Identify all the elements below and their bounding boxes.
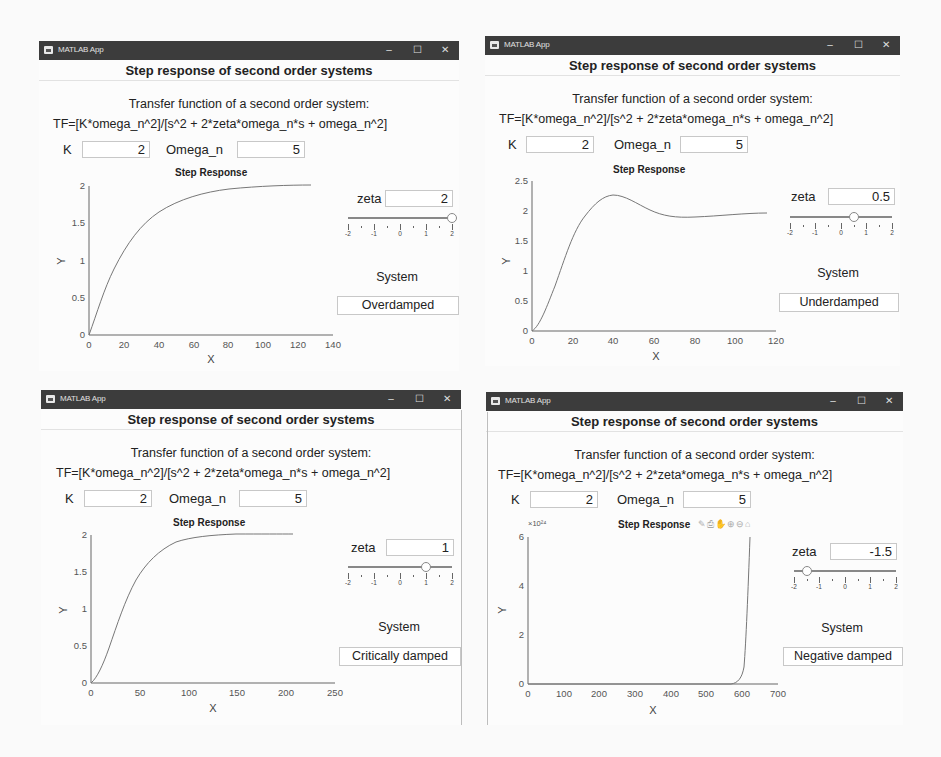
step-response-axes[interactable]: ×10²⁴ 0246 0100200300400500600700 X Y — [486, 532, 796, 722]
k-input[interactable]: 2 — [526, 136, 594, 153]
window-title: MATLAB App — [504, 40, 549, 49]
zoom-out-icon[interactable]: ⊖ — [736, 519, 745, 529]
svg-text:140: 140 — [325, 339, 341, 350]
step-response-axes[interactable]: 00.511.52 020406080100120140 X Y — [39, 181, 349, 371]
svg-text:2: 2 — [519, 629, 524, 640]
svg-text:40: 40 — [608, 335, 619, 346]
divider — [39, 80, 459, 81]
app-window-critically-damped: MATLAB App – ☐ ✕ Step response of second… — [41, 390, 461, 725]
step-response-axes[interactable]: 00.511.522.5 020406080100120 X Y — [485, 176, 795, 366]
app-window-overdamped: MATLAB App – ☐ ✕ Step response of second… — [39, 41, 459, 371]
minimize-button[interactable]: – — [822, 38, 838, 52]
slider-thumb[interactable] — [447, 213, 457, 223]
tf-label: Transfer function of a second order syst… — [41, 446, 461, 460]
svg-text:0: 0 — [519, 678, 524, 689]
svg-text:120: 120 — [768, 335, 784, 346]
plot-title: Step Response — [175, 167, 247, 178]
svg-text:1.5: 1.5 — [72, 217, 85, 228]
svg-text:400: 400 — [663, 688, 679, 699]
svg-text:2.5: 2.5 — [515, 175, 528, 186]
app-heading: Step response of second order systems — [41, 412, 461, 427]
svg-text:1.5: 1.5 — [74, 566, 87, 577]
zeta-input[interactable]: 0.5 — [828, 188, 895, 205]
minimize-button[interactable]: – — [825, 394, 841, 408]
step-response-axes[interactable]: 00.511.52 050100150200250 X Y — [41, 530, 351, 720]
omega-n-input[interactable]: 5 — [239, 490, 307, 507]
system-type-field: Critically damped — [339, 647, 461, 666]
slider-tick-label: -1 — [813, 583, 825, 590]
k-input[interactable]: 2 — [82, 141, 150, 158]
svg-text:Y: Y — [57, 606, 69, 614]
k-input[interactable]: 2 — [530, 491, 598, 508]
slider-tick-label: 2 — [886, 229, 898, 236]
slider-tick-label: 1 — [420, 579, 432, 586]
k-label: K — [63, 142, 72, 157]
svg-text:500: 500 — [698, 688, 714, 699]
omega-n-input[interactable]: 5 — [237, 141, 305, 158]
slider-thumb[interactable] — [421, 562, 431, 572]
svg-text:1: 1 — [80, 255, 85, 266]
zeta-label: zeta — [351, 540, 376, 555]
y-exponent: ×10²⁴ — [528, 519, 546, 528]
svg-text:100: 100 — [255, 339, 271, 350]
zoom-in-icon[interactable]: ⊕ — [727, 519, 736, 529]
title-bar: MATLAB App – ☐ ✕ — [486, 392, 903, 411]
slider-tick-label: 0 — [394, 230, 406, 237]
zeta-slider[interactable]: -2 -1 0 1 2 — [348, 213, 452, 243]
minimize-button[interactable]: – — [383, 392, 399, 406]
maximize-button[interactable]: ☐ — [409, 43, 425, 57]
close-button[interactable]: ✕ — [437, 43, 453, 57]
omega-n-input[interactable]: 5 — [683, 491, 751, 508]
k-input[interactable]: 2 — [84, 490, 152, 507]
home-icon[interactable]: ⌂ — [745, 519, 751, 529]
export-icon[interactable]: ⎙ — [707, 519, 715, 529]
pan-icon[interactable]: ✋ — [715, 519, 727, 529]
zeta-slider[interactable]: -2 -1 0 1 2 — [794, 566, 896, 596]
brush-icon[interactable]: ✎ — [698, 519, 707, 529]
slider-tick-label: -2 — [788, 583, 800, 590]
maximize-button[interactable]: ☐ — [850, 38, 866, 52]
slider-tick-label: 0 — [839, 583, 851, 590]
slider-thumb[interactable] — [802, 566, 812, 576]
zeta-slider[interactable]: -2 -1 0 1 2 — [790, 212, 892, 242]
slider-tick-label: 1 — [420, 230, 432, 237]
close-button[interactable]: ✕ — [881, 394, 897, 408]
close-button[interactable]: ✕ — [439, 392, 455, 406]
maximize-button[interactable]: ☐ — [853, 394, 869, 408]
divider — [485, 75, 900, 76]
k-label: K — [508, 137, 517, 152]
system-type-field: Underdamped — [779, 293, 899, 312]
slider-thumb[interactable] — [849, 212, 859, 222]
svg-text:0: 0 — [82, 677, 87, 688]
svg-text:Y: Y — [500, 257, 512, 265]
slider-track — [790, 216, 892, 218]
plot-title: Step Response — [613, 164, 685, 175]
close-button[interactable]: ✕ — [878, 38, 894, 52]
svg-text:20: 20 — [568, 335, 579, 346]
zeta-input[interactable]: 1 — [386, 539, 454, 556]
system-label: System — [783, 621, 901, 635]
app-heading: Step response of second order systems — [39, 63, 459, 78]
zeta-input[interactable]: 2 — [385, 190, 453, 207]
maximize-button[interactable]: ☐ — [411, 392, 427, 406]
window-border — [487, 412, 488, 725]
matlab-app-icon — [44, 46, 53, 54]
omega-n-input[interactable]: 5 — [680, 136, 748, 153]
svg-text:100: 100 — [556, 688, 572, 699]
k-label: K — [65, 491, 74, 506]
svg-text:Y: Y — [496, 606, 508, 614]
omega-n-label: Omega_n — [617, 492, 674, 507]
svg-text:X: X — [652, 350, 660, 362]
tf-label: Transfer function of a second order syst… — [486, 448, 903, 462]
window-title: MATLAB App — [58, 45, 103, 54]
title-bar: MATLAB App – ☐ ✕ — [485, 36, 900, 55]
omega-n-label: Omega_n — [169, 491, 226, 506]
svg-text:0: 0 — [529, 335, 534, 346]
svg-text:0.5: 0.5 — [515, 295, 528, 306]
minimize-button[interactable]: – — [381, 43, 397, 57]
window-title: MATLAB App — [60, 394, 105, 403]
zeta-slider[interactable]: -2 -1 0 1 2 — [348, 562, 452, 592]
svg-text:X: X — [649, 704, 657, 716]
svg-text:1: 1 — [523, 265, 528, 276]
zeta-input[interactable]: -1.5 — [830, 543, 897, 560]
